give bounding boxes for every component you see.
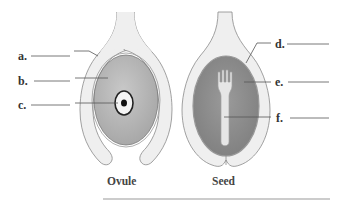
integument-top bbox=[100, 12, 152, 52]
label-f: f. bbox=[276, 112, 283, 124]
label-c: c. bbox=[18, 99, 26, 111]
caption-seed: Seed bbox=[212, 175, 235, 187]
ovule-seed-diagram: a. b. c. d. e. f. Ovule Seed bbox=[0, 0, 347, 205]
caption-ovule: Ovule bbox=[107, 175, 136, 187]
egg-nucleus bbox=[121, 100, 127, 107]
diagram-graphic bbox=[0, 0, 347, 205]
label-e: e. bbox=[275, 76, 283, 88]
ovule-graphic bbox=[80, 12, 172, 165]
label-d: d. bbox=[275, 38, 285, 50]
seed-graphic bbox=[182, 12, 270, 166]
label-b: b. bbox=[18, 75, 28, 87]
label-a: a. bbox=[18, 50, 27, 62]
